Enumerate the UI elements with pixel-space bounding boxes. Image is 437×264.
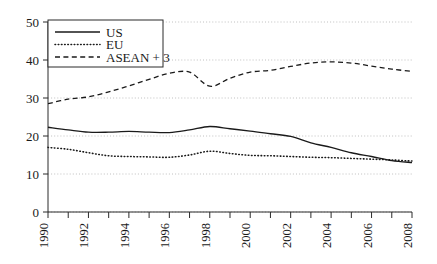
x-tick-label: 2004 (320, 222, 334, 248)
x-tick-label: 2002 (280, 223, 294, 248)
y-tick-label: 50 (26, 15, 39, 30)
y-tick-label: 20 (26, 129, 39, 144)
line-chart: 01020304050 1990199219941996199820002002… (0, 0, 437, 264)
x-tick-label: 2008 (401, 223, 415, 248)
legend: USEUASEAN + 3 (48, 20, 170, 67)
series-line-asean-3 (48, 62, 412, 104)
x-tick-label: 1990 (37, 223, 51, 248)
x-tick-label: 2006 (361, 223, 375, 248)
x-axis: 1990199219941996199820002002200420062008 (37, 212, 415, 248)
y-tick-label: 10 (26, 167, 39, 182)
y-axis: 01020304050 (26, 15, 48, 220)
chart-canvas: 01020304050 1990199219941996199820002002… (0, 0, 437, 264)
x-tick-label: 1994 (118, 222, 132, 248)
x-tick-label: 1996 (158, 223, 172, 248)
y-tick-label: 30 (26, 91, 39, 106)
legend-label: ASEAN + 3 (106, 50, 170, 65)
x-tick-label: 1992 (77, 223, 91, 248)
y-tick-label: 40 (26, 53, 39, 68)
series-line-us (48, 126, 412, 162)
x-tick-label: 1998 (199, 223, 213, 248)
series-group (48, 62, 412, 163)
y-tick-label: 0 (33, 205, 40, 220)
x-tick-label: 2000 (239, 223, 253, 248)
